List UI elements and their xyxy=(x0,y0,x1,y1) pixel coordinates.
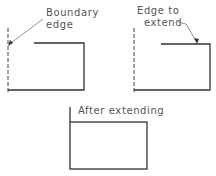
panel-boundary-edge: Boundary edge xyxy=(8,7,99,92)
edge-label-line1: Edge to xyxy=(137,5,180,16)
boundary-arrowhead-icon xyxy=(8,40,13,46)
boundary-label-line2: edge xyxy=(46,19,73,30)
result-label: After extending xyxy=(78,105,164,116)
edge-panel-shape xyxy=(134,44,210,90)
result-rectangle xyxy=(70,122,147,169)
boundary-leader-line xyxy=(11,19,43,43)
panel-after-extending: After extending xyxy=(70,105,164,169)
boundary-label-line1: Boundary xyxy=(46,7,99,18)
edge-arrowhead-icon xyxy=(194,38,199,44)
panel-edge-to-extend: Edge to extend xyxy=(134,5,210,92)
edge-label-line2: extend xyxy=(144,17,182,28)
extend-diagram: Boundary edge Edge to extend After exten… xyxy=(0,0,216,176)
boundary-panel-shape xyxy=(8,43,84,90)
